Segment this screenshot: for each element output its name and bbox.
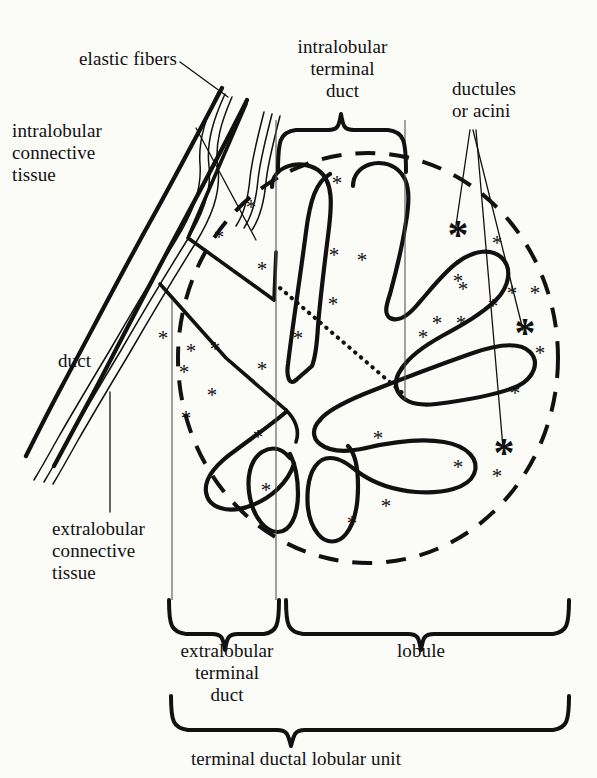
label-ductules-or-acini: ductules or acini bbox=[452, 78, 592, 122]
svg-text:*: * bbox=[381, 494, 392, 518]
svg-text:*: * bbox=[535, 341, 546, 365]
svg-text:*: * bbox=[328, 292, 339, 316]
label-elastic-fibers: elastic fibers bbox=[12, 48, 177, 70]
svg-text:*: * bbox=[332, 171, 343, 195]
leader-elastic-fibers bbox=[180, 62, 228, 97]
svg-text:*: * bbox=[453, 269, 464, 293]
lobule-boundary-dashed-circle bbox=[178, 153, 558, 563]
svg-text:*: * bbox=[253, 425, 264, 449]
label-intralobular-connective-tissue: intralobular connective tissue bbox=[12, 120, 187, 186]
svg-text:*: * bbox=[214, 225, 225, 249]
svg-text:*: * bbox=[246, 195, 257, 219]
svg-text:*: * bbox=[257, 257, 268, 281]
svg-text:*: * bbox=[329, 243, 340, 267]
label-duct: duct bbox=[58, 350, 138, 372]
leader-acinus-3 bbox=[476, 130, 503, 448]
acinus-asterisk-2: * bbox=[515, 310, 536, 356]
svg-text:*: * bbox=[453, 455, 464, 479]
svg-text:*: * bbox=[488, 294, 499, 318]
svg-text:*: * bbox=[293, 326, 304, 350]
label-intralobular-terminal-duct: intralobular terminal duct bbox=[255, 36, 430, 102]
svg-text:*: * bbox=[510, 381, 521, 405]
diagram-canvas: * * * * * * * * * * * * * * * * * * * * … bbox=[0, 0, 597, 778]
svg-text:*: * bbox=[181, 406, 192, 430]
duct-branch-fibers bbox=[236, 112, 280, 230]
acinus-asterisk-1: * bbox=[448, 212, 469, 258]
svg-text:*: * bbox=[418, 325, 429, 349]
label-extralobular-terminal-duct: extralobular terminal duct bbox=[147, 640, 307, 706]
svg-text:*: * bbox=[530, 281, 541, 305]
label-extralobular-connective-tissue: extralobular connective tissue bbox=[52, 518, 232, 584]
acinus-asterisk-3: * bbox=[494, 430, 515, 476]
label-lobule: lobule bbox=[366, 640, 476, 662]
svg-text:*: * bbox=[373, 426, 384, 450]
svg-text:*: * bbox=[210, 337, 221, 361]
svg-text:*: * bbox=[179, 360, 190, 384]
lobule-ductule-outline bbox=[206, 163, 535, 541]
svg-text:*: * bbox=[507, 281, 518, 305]
svg-text:*: * bbox=[432, 311, 443, 335]
svg-text:*: * bbox=[257, 357, 268, 381]
svg-text:*: * bbox=[158, 326, 169, 350]
label-terminal-ductal-lobular-unit: terminal ductal lobular unit bbox=[146, 748, 446, 770]
svg-text:*: * bbox=[261, 478, 272, 502]
svg-text:*: * bbox=[357, 248, 368, 272]
svg-text:*: * bbox=[347, 511, 358, 535]
svg-text:*: * bbox=[456, 311, 467, 335]
svg-text:*: * bbox=[207, 383, 218, 407]
svg-text:*: * bbox=[492, 231, 503, 255]
